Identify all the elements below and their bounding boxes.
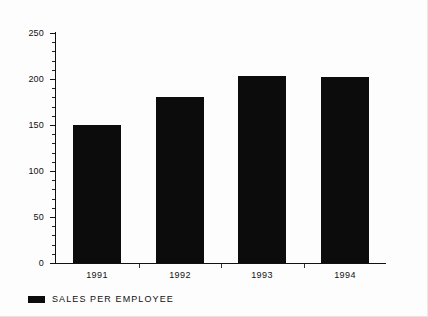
document-page: 050100150200250 1991199219931994 SALES P… bbox=[0, 0, 428, 317]
y-axis-minor-tick bbox=[52, 245, 55, 246]
bar-1993 bbox=[238, 76, 286, 263]
bar-1991 bbox=[73, 125, 121, 263]
x-axis-tick-label-1993: 1993 bbox=[232, 270, 292, 280]
y-axis-minor-tick bbox=[52, 153, 55, 154]
y-axis-minor-tick bbox=[52, 97, 55, 98]
y-axis-tick-label: 100 bbox=[0, 167, 44, 176]
y-axis-tick-label: 200 bbox=[0, 75, 44, 84]
legend-label-sales-per-employee: SALES PER EMPLOYEE bbox=[52, 294, 174, 304]
x-axis-tick-label-1992: 1992 bbox=[150, 270, 210, 280]
y-axis-major-tick bbox=[50, 79, 55, 80]
legend-swatch-sales-per-employee bbox=[28, 296, 45, 303]
y-axis-minor-tick bbox=[52, 162, 55, 163]
x-axis-tick bbox=[221, 264, 222, 268]
plot-area bbox=[56, 33, 386, 263]
y-axis-major-tick bbox=[50, 217, 55, 218]
bar-1994 bbox=[321, 77, 369, 263]
x-axis-tick-label-1991: 1991 bbox=[67, 270, 127, 280]
y-axis-minor-tick bbox=[52, 235, 55, 236]
y-axis-minor-tick bbox=[52, 189, 55, 190]
y-axis-minor-tick bbox=[52, 143, 55, 144]
y-axis-minor-tick bbox=[52, 254, 55, 255]
chart-legend: SALES PER EMPLOYEE bbox=[28, 294, 174, 304]
y-axis-minor-tick bbox=[52, 134, 55, 135]
bar-chart-figure: 050100150200250 1991199219931994 SALES P… bbox=[0, 0, 428, 317]
x-axis-tick bbox=[304, 264, 305, 268]
y-axis-major-tick bbox=[50, 33, 55, 34]
y-axis-minor-tick bbox=[52, 208, 55, 209]
y-axis-tick-label: 50 bbox=[0, 213, 44, 222]
x-axis-tick bbox=[139, 264, 140, 268]
y-axis-tick-label: 0 bbox=[0, 259, 44, 268]
y-axis-minor-tick bbox=[52, 107, 55, 108]
bar-1992 bbox=[156, 97, 204, 263]
y-axis-tick-label: 250 bbox=[0, 29, 44, 38]
y-axis-minor-tick bbox=[52, 199, 55, 200]
y-axis-minor-tick bbox=[52, 180, 55, 181]
x-axis-tick-label-1994: 1994 bbox=[315, 270, 375, 280]
y-axis-major-tick bbox=[50, 171, 55, 172]
y-axis-minor-tick bbox=[52, 61, 55, 62]
y-axis-minor-tick bbox=[52, 70, 55, 71]
y-axis-minor-tick bbox=[52, 42, 55, 43]
y-axis-minor-tick bbox=[52, 51, 55, 52]
y-axis-minor-tick bbox=[52, 226, 55, 227]
y-axis-minor-tick bbox=[52, 88, 55, 89]
y-axis-minor-tick bbox=[52, 116, 55, 117]
y-axis-tick-label: 150 bbox=[0, 121, 44, 130]
y-axis-major-tick bbox=[50, 263, 55, 264]
y-axis-major-tick bbox=[50, 125, 55, 126]
